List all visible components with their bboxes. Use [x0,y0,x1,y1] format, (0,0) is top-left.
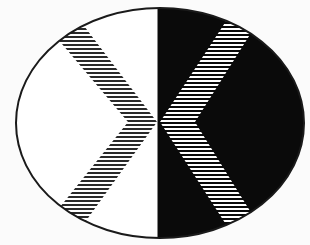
emblem-body [0,0,310,245]
emblem-canvas [0,0,310,245]
oval-chevron-emblem [0,0,310,245]
